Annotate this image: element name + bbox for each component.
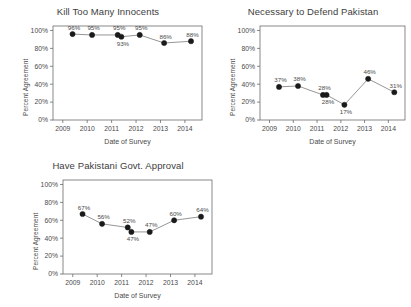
data-point-label: 28% xyxy=(322,98,335,105)
data-point-label: 47% xyxy=(145,221,158,228)
charts-figure: Kill Too Many Innocents 0%20%40%60%80%10… xyxy=(0,0,411,307)
y-tick-label: 60% xyxy=(44,217,58,224)
data-point-marker xyxy=(147,229,152,234)
data-point-marker xyxy=(342,102,347,107)
data-point-marker xyxy=(119,34,124,39)
data-point-label: 52% xyxy=(123,217,136,224)
data-point-marker xyxy=(324,92,329,97)
x-tick-label: 2009 xyxy=(65,279,80,286)
data-point-label: 28% xyxy=(318,84,331,91)
data-point-label: 56% xyxy=(97,213,110,220)
data-point-label: 95% xyxy=(135,24,148,31)
x-tick-label: 2009 xyxy=(55,125,70,132)
data-point-marker xyxy=(366,76,371,81)
y-tick-label: 40% xyxy=(34,81,48,88)
data-point-marker xyxy=(99,221,104,226)
x-tick-label: 2010 xyxy=(286,125,301,132)
data-point-label: 60% xyxy=(169,210,182,217)
data-point-label: 37% xyxy=(274,76,287,83)
x-tick-label: 2013 xyxy=(153,125,168,132)
data-point-marker xyxy=(70,31,75,36)
x-tick-label: 2013 xyxy=(163,279,178,286)
y-tick-label: 0% xyxy=(38,116,48,123)
data-point-label: 67% xyxy=(78,204,91,211)
chart-panel-have-pakistani-govt-approval: Have Pakistani Govt. Approval 0%20%40%60… xyxy=(18,156,218,306)
x-tick-label: 2012 xyxy=(333,125,348,132)
data-point-label: 93% xyxy=(117,40,130,47)
x-tick-label: 2012 xyxy=(128,125,143,132)
data-point-marker xyxy=(276,84,281,89)
y-axis-label: Percent Agreement xyxy=(32,213,39,270)
y-axis-label: Percent Agreement xyxy=(229,59,236,116)
y-tick-label: 20% xyxy=(34,98,48,105)
data-point-label: 96% xyxy=(68,24,81,31)
chart-plot-area: 0%20%40%60%80%100%2009201020112012201320… xyxy=(8,2,208,154)
data-point-marker xyxy=(392,90,397,95)
data-point-marker xyxy=(188,39,193,44)
x-tick-label: 2014 xyxy=(177,125,192,132)
x-tick-label: 2014 xyxy=(381,125,396,132)
y-tick-label: 20% xyxy=(241,98,255,105)
x-tick-label: 2011 xyxy=(104,125,119,132)
x-tick-label: 2011 xyxy=(310,125,325,132)
data-point-label: 86% xyxy=(159,33,172,40)
data-point-marker xyxy=(137,32,142,37)
y-tick-label: 80% xyxy=(241,45,255,52)
chart-panel-necessary-to-defend-pakistan: Necessary to Defend Pakistan 0%20%40%60%… xyxy=(215,2,411,154)
y-axis-label: Percent Agreement xyxy=(22,59,29,116)
chart-plot-area: 0%20%40%60%80%100%2009201020112012201320… xyxy=(18,156,218,306)
data-point-marker xyxy=(172,218,177,223)
y-tick-label: 0% xyxy=(245,116,255,123)
data-point-label: 17% xyxy=(340,108,353,115)
y-tick-label: 40% xyxy=(241,81,255,88)
data-point-label: 47% xyxy=(127,235,140,242)
data-point-label: 46% xyxy=(363,68,376,75)
data-point-label: 95% xyxy=(113,24,126,31)
x-axis-label: Date of Survey xyxy=(260,138,405,145)
x-tick-label: 2014 xyxy=(187,279,202,286)
data-point-marker xyxy=(162,40,167,45)
x-tick-label: 2012 xyxy=(138,279,153,286)
data-point-marker xyxy=(295,83,300,88)
y-tick-label: 0% xyxy=(48,270,58,277)
y-tick-label: 80% xyxy=(44,199,58,206)
data-point-marker xyxy=(129,229,134,234)
x-axis-label: Date of Survey xyxy=(63,292,212,299)
x-tick-label: 2013 xyxy=(357,125,372,132)
data-point-marker xyxy=(125,225,130,230)
data-point-marker xyxy=(80,211,85,216)
data-point-label: 38% xyxy=(293,75,306,82)
x-tick-label: 2011 xyxy=(114,279,129,286)
x-axis-label: Date of Survey xyxy=(53,138,202,145)
data-point-label: 31% xyxy=(390,82,403,89)
data-point-label: 64% xyxy=(196,206,209,213)
data-point-label: 88% xyxy=(186,31,199,38)
data-line xyxy=(279,79,394,105)
data-point-marker xyxy=(89,32,94,37)
y-tick-label: 100% xyxy=(238,27,255,34)
y-tick-label: 100% xyxy=(41,181,58,188)
plot-frame xyxy=(63,180,212,274)
data-point-marker xyxy=(198,214,203,219)
chart-panel-kill-too-many-innocents: Kill Too Many Innocents 0%20%40%60%80%10… xyxy=(8,2,208,154)
y-tick-label: 60% xyxy=(34,63,48,70)
data-point-label: 95% xyxy=(87,24,100,31)
x-tick-label: 2010 xyxy=(80,125,95,132)
x-tick-label: 2009 xyxy=(262,125,277,132)
x-tick-label: 2010 xyxy=(90,279,105,286)
chart-plot-area: 0%20%40%60%80%100%2009201020112012201320… xyxy=(215,2,411,154)
y-tick-label: 80% xyxy=(34,45,48,52)
y-tick-label: 100% xyxy=(31,27,48,34)
y-tick-label: 60% xyxy=(241,63,255,70)
plot-frame xyxy=(260,26,405,120)
y-tick-label: 20% xyxy=(44,252,58,259)
y-tick-label: 40% xyxy=(44,235,58,242)
